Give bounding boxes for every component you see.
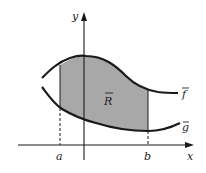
- y-axis-label: y: [71, 10, 79, 23]
- region-diagram: y x a b R f g: [0, 0, 206, 173]
- curve-f-label: f: [181, 88, 188, 101]
- y-axis-arrow-icon: [81, 12, 87, 21]
- x-axis-arrow-icon: [185, 142, 194, 148]
- bound-a-label: a: [56, 150, 63, 163]
- bound-b-label: b: [144, 150, 151, 163]
- curve-g-label: g: [182, 121, 189, 134]
- x-axis-label: x: [187, 150, 194, 163]
- region-r-fill: [60, 56, 148, 131]
- region-label: R: [103, 95, 112, 108]
